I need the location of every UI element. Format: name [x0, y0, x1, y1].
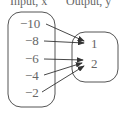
arrow-icon [46, 24, 84, 41]
arrow-icon [44, 59, 83, 60]
mapping-diagram: −10 −8 −6 −4 −2 1 2 [0, 0, 122, 113]
range-value: 2 [91, 56, 98, 71]
arrow-icon [44, 63, 82, 75]
arrow-icon [42, 66, 84, 92]
domain-value: −8 [25, 33, 39, 48]
range-value: 1 [91, 36, 98, 51]
domain-value: −10 [20, 16, 40, 31]
domain-value: −2 [25, 85, 39, 100]
arrow-icon [44, 41, 84, 43]
domain-value: −6 [25, 51, 39, 66]
domain-value: −4 [25, 68, 39, 83]
